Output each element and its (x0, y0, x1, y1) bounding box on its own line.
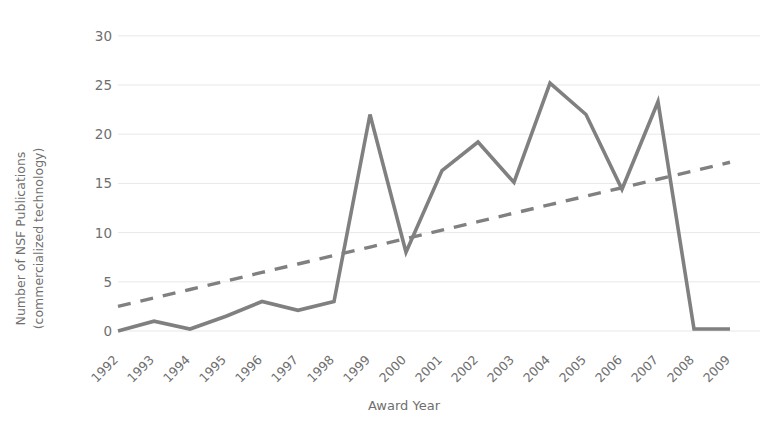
line-chart: 0 5 10 15 20 25 30 1992 1993 1994 1995 1… (0, 0, 778, 437)
x-tick-1994: 1994 (160, 352, 193, 385)
x-tick-1993: 1993 (124, 352, 157, 385)
x-axis-ticks: 1992 1993 1994 1995 1996 1997 1998 1999 … (0, 0, 778, 437)
x-tick-2007: 2007 (628, 352, 661, 385)
x-tick-2000: 2000 (376, 352, 409, 385)
x-tick-1995: 1995 (196, 352, 229, 385)
x-tick-2004: 2004 (520, 352, 553, 385)
x-tick-1992: 1992 (88, 352, 121, 385)
x-tick-2008: 2008 (664, 352, 697, 385)
x-axis-title-wrap: Award Year (0, 398, 778, 413)
x-tick-1996: 1996 (232, 352, 265, 385)
x-tick-1998: 1998 (304, 352, 337, 385)
x-tick-1997: 1997 (268, 352, 301, 385)
x-tick-2006: 2006 (592, 352, 625, 385)
x-tick-2002: 2002 (448, 352, 481, 385)
x-tick-2005: 2005 (556, 352, 589, 385)
x-tick-1999: 1999 (340, 352, 373, 385)
x-tick-2003: 2003 (484, 352, 517, 385)
x-tick-2001: 2001 (412, 352, 445, 385)
x-tick-2009: 2009 (700, 352, 733, 385)
x-axis-title: Award Year (368, 398, 440, 413)
